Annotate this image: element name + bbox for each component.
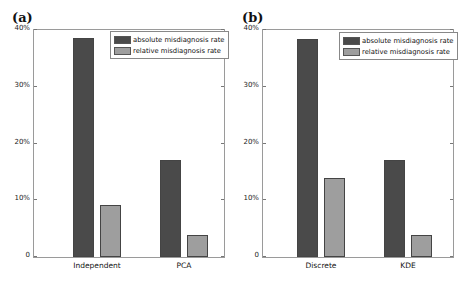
legend-entry: relative misdiagnosis rate [343,46,454,57]
y-tick-mark [221,256,224,257]
plot-area [33,29,225,258]
y-tick-mark [450,86,453,87]
legend: absolute misdiagnosis raterelative misdi… [339,32,458,60]
y-tick-label: 20% [6,138,30,146]
y-tick-mark [450,143,453,144]
y-tick-mark [221,29,224,30]
legend-entry: absolute misdiagnosis rate [114,34,225,45]
legend-swatch [343,48,360,56]
bar-relative [411,235,432,257]
y-tick-label: 0 [6,251,30,259]
legend-label: absolute misdiagnosis rate [362,37,454,45]
x-tick-label: PCA [144,261,224,270]
x-tick-label: KDE [368,261,448,270]
chart-panel-a: (a)010%20%30%40%IndependentPCAabsolute m… [0,0,233,281]
y-tick-mark [221,86,224,87]
y-tick-label: 30% [6,81,30,89]
y-tick-label: 40% [6,24,30,32]
plot-area [262,29,454,258]
bar-absolute [73,38,94,257]
y-tick-mark [263,199,266,200]
legend-label: relative misdiagnosis rate [133,47,221,55]
y-tick-label: 10% [235,194,259,202]
bar-absolute [384,160,405,257]
bar-relative [187,235,208,257]
y-tick-label: 0 [235,251,259,259]
legend-label: absolute misdiagnosis rate [133,36,225,44]
bar-absolute [160,160,181,257]
legend-swatch [343,37,360,45]
y-tick-mark [221,199,224,200]
panel-label: (a) [12,10,33,25]
y-tick-label: 20% [235,138,259,146]
chart-panel-b: (b)010%20%30%40%DiscreteKDEabsolute misd… [233,0,466,281]
y-tick-label: 30% [235,81,259,89]
bar-relative [100,205,121,257]
legend: absolute misdiagnosis raterelative misdi… [110,31,229,59]
y-tick-mark [34,29,37,30]
y-tick-label: 40% [235,24,259,32]
y-tick-mark [263,29,266,30]
y-tick-mark [34,256,37,257]
x-tick-label: Discrete [281,261,361,270]
y-tick-mark [450,256,453,257]
bar-absolute [297,39,318,257]
y-tick-mark [34,199,37,200]
legend-entry: absolute misdiagnosis rate [343,35,454,46]
x-tick-label: Independent [57,261,137,270]
bar-relative [324,178,345,257]
y-tick-mark [450,199,453,200]
y-tick-label: 10% [6,194,30,202]
y-tick-mark [34,143,37,144]
y-tick-mark [263,86,266,87]
y-tick-mark [263,256,266,257]
y-tick-mark [450,29,453,30]
legend-swatch [114,47,131,55]
y-tick-mark [221,143,224,144]
legend-swatch [114,36,131,44]
legend-entry: relative misdiagnosis rate [114,45,225,56]
legend-label: relative misdiagnosis rate [362,48,450,56]
y-tick-mark [34,86,37,87]
y-tick-mark [263,143,266,144]
panel-label: (b) [242,10,263,25]
